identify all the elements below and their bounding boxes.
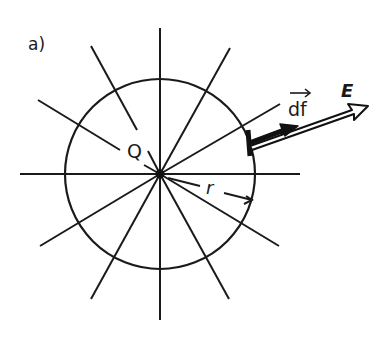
- surface-element: [248, 130, 250, 156]
- field-label: E: [341, 80, 354, 101]
- field-line-60: [160, 48, 230, 174]
- area-vector-label: df: [288, 98, 308, 120]
- panel-label: a): [28, 34, 45, 54]
- field-line-240: [91, 174, 160, 299]
- gauss-law-diagram: a) Q r df E: [0, 0, 388, 340]
- charge-label: Q: [127, 140, 142, 162]
- field-line-120: [91, 46, 137, 130]
- point-charge: [156, 170, 165, 179]
- field-line-300: [160, 174, 229, 299]
- vector-overarrow-icon: [290, 89, 310, 97]
- field-line-210: [40, 174, 160, 246]
- radius-label: r: [206, 177, 215, 198]
- field-line-330: [160, 174, 279, 246]
